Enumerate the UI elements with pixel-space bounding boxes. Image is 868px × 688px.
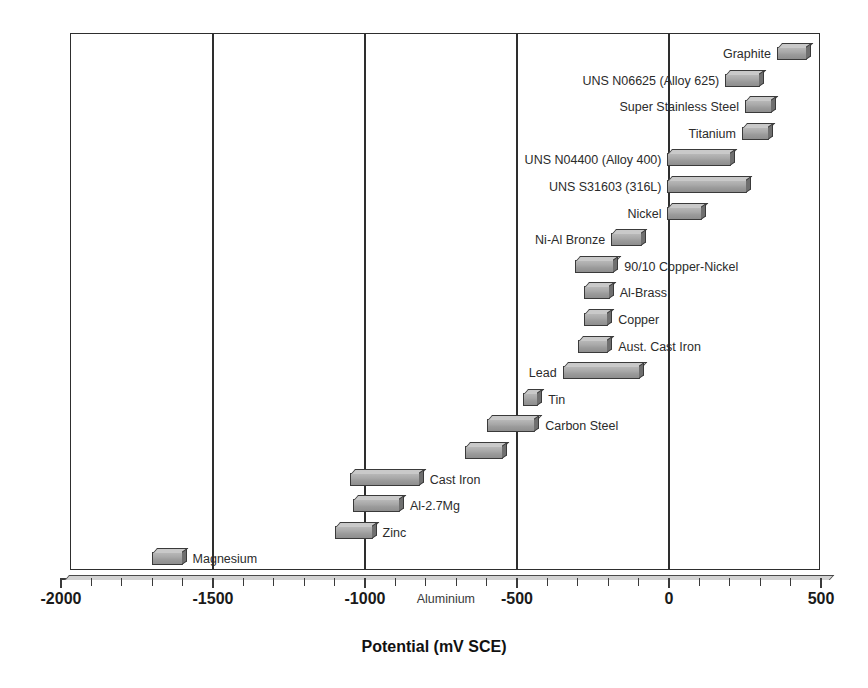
bar-al-brass xyxy=(584,286,610,299)
bar-al-2-7mg xyxy=(353,499,400,512)
tick-label--1500: -1500 xyxy=(163,590,263,608)
bar-label-lead: Lead xyxy=(529,367,557,380)
tick-label--1000: -1000 xyxy=(315,590,415,608)
galvanic-series-chart: GraphiteUNS N06625 (Alloy 625)Super Stai… xyxy=(0,0,868,688)
tick-0 xyxy=(668,578,670,588)
bar-label-ni-al-bronze: Ni-Al Bronze xyxy=(535,234,605,247)
gridline--1500 xyxy=(212,33,214,570)
tick--200 xyxy=(608,578,609,586)
tick--600 xyxy=(486,578,487,586)
tick-300 xyxy=(760,578,761,586)
tick-label-0: 0 xyxy=(619,590,719,608)
tick--2000 xyxy=(60,578,62,588)
bar-90-10-copper-nickel xyxy=(575,260,615,273)
bar-label-90-10-copper-nickel: 90/10 Copper-Nickel xyxy=(624,261,738,274)
tick--800 xyxy=(425,578,426,586)
tick-label--500: -500 xyxy=(467,590,567,608)
bar-label-uns-s31603-316l: UNS S31603 (316L) xyxy=(549,181,662,194)
tick-label--2000: -2000 xyxy=(11,590,111,608)
bar-label-zinc: Zinc xyxy=(383,527,407,540)
bar-uns-s31603-316l xyxy=(667,180,746,193)
bar-tin xyxy=(523,393,538,406)
bar-label-tin: Tin xyxy=(548,394,565,407)
bar-label-super-stainless-steel: Super Stainless Steel xyxy=(619,101,739,114)
tick--1200 xyxy=(304,578,305,586)
bar-aluminium xyxy=(465,446,503,459)
bar-lead xyxy=(563,366,641,379)
tick--1400 xyxy=(243,578,244,586)
bar-copper xyxy=(584,313,608,326)
tick--1800 xyxy=(121,578,122,586)
bar-label-cast-iron: Cast Iron xyxy=(430,474,481,487)
tick-400 xyxy=(790,578,791,586)
bar-label-copper: Copper xyxy=(618,314,659,327)
tick-500 xyxy=(820,578,822,588)
tick--1700 xyxy=(152,578,153,586)
bar-label-uns-n04400-alloy-400: UNS N04400 (Alloy 400) xyxy=(525,154,662,167)
bar-label-al-brass: Al-Brass xyxy=(620,287,667,300)
bar-magnesium xyxy=(152,552,182,565)
bar-label-titanium: Titanium xyxy=(689,128,736,141)
bar-label-aust-cast-iron: Aust. Cast Iron xyxy=(618,341,701,354)
bar-aust-cast-iron xyxy=(578,340,608,353)
bar-super-stainless-steel xyxy=(745,100,772,113)
tick--500 xyxy=(516,578,518,588)
tick--900 xyxy=(395,578,396,586)
bar-label-graphite: Graphite xyxy=(723,48,771,61)
x-axis-line xyxy=(62,578,828,580)
gridline--500 xyxy=(516,33,518,570)
tick--1900 xyxy=(91,578,92,586)
tick-label-500: 500 xyxy=(771,590,868,608)
bar-label-nickel: Nickel xyxy=(627,208,661,221)
tick--100 xyxy=(638,578,639,586)
gridline--1000 xyxy=(364,33,366,570)
tick--1000 xyxy=(364,578,366,588)
bar-graphite xyxy=(777,47,807,60)
tick--700 xyxy=(456,578,457,586)
tick--300 xyxy=(577,578,578,586)
bar-label-uns-n06625-alloy-625: UNS N06625 (Alloy 625) xyxy=(582,75,719,88)
bar-nickel xyxy=(667,207,702,220)
bar-uns-n06625-alloy-625 xyxy=(725,74,760,87)
bar-label-carbon-steel: Carbon Steel xyxy=(545,420,618,433)
tick--400 xyxy=(547,578,548,586)
tick-100 xyxy=(699,578,700,586)
tick--1100 xyxy=(334,578,335,586)
bar-zinc xyxy=(335,526,373,539)
x-axis-title: Potential (mV SCE) xyxy=(0,638,868,656)
bar-carbon-steel xyxy=(487,419,536,432)
bar-titanium xyxy=(742,127,769,140)
bar-cast-iron xyxy=(350,473,420,486)
axis-annotation-aluminium: Aluminium xyxy=(417,592,475,606)
bar-ni-al-bronze xyxy=(611,233,641,246)
bar-uns-n04400-alloy-400 xyxy=(667,153,731,166)
tick--1500 xyxy=(212,578,214,588)
tick-200 xyxy=(729,578,730,586)
tick--1600 xyxy=(182,578,183,586)
tick--1300 xyxy=(273,578,274,586)
bar-label-magnesium: Magnesium xyxy=(193,553,258,566)
bar-label-al-2-7mg: Al-2.7Mg xyxy=(410,500,460,513)
